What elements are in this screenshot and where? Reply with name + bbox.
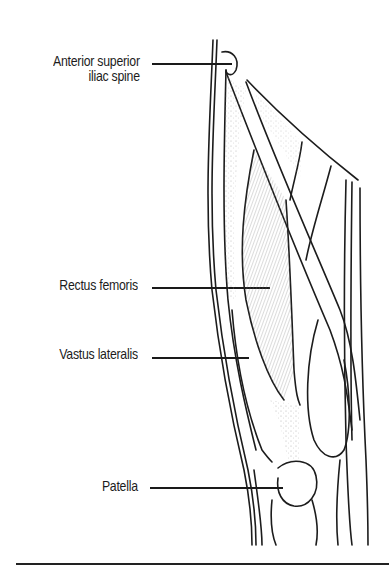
thigh-muscle-illustration: [0, 0, 389, 567]
bottom-divider: [16, 563, 389, 565]
